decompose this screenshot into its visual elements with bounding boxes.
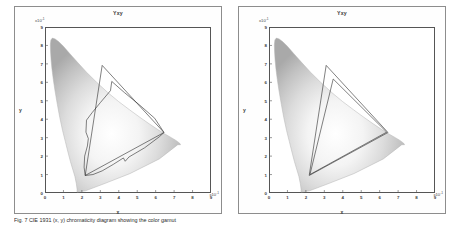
y-tick-3: 3	[265, 135, 267, 140]
y-tick-9: 9	[41, 25, 43, 30]
y-tick-7: 7	[41, 61, 43, 66]
y-axis-multiplier-base-right: x10	[259, 18, 266, 23]
figure-caption: Fig. 7 CIE 1931 (x, y) chromaticity diag…	[14, 217, 444, 231]
x-axis-title-left: x	[15, 209, 221, 215]
y-axis-multiplier-exponent-left: -1	[42, 17, 45, 21]
chart-panel-right: Yxy x10-1 x10-1 y x	[238, 6, 446, 214]
y-axis-multiplier-right: x10-1	[259, 17, 269, 23]
spectral-locus-fill-left	[50, 38, 180, 192]
x-axis-title-right: x	[239, 209, 445, 215]
x-tick-0: 0	[44, 195, 46, 200]
x-tick-5: 5	[360, 195, 362, 200]
x-tick-3: 3	[99, 195, 101, 200]
y-tick-6: 6	[41, 80, 43, 85]
x-tick-7: 7	[173, 195, 175, 200]
y-tick-7: 7	[265, 61, 267, 66]
x-tick-8: 8	[191, 195, 193, 200]
y-tick-0: 0	[265, 191, 267, 196]
chart-panel-left: Yxy x10-1 x10-1 y x	[14, 6, 222, 214]
y-tick-6: 6	[265, 80, 267, 85]
plot-area-right: 9876543210 0123456789	[269, 27, 435, 193]
y-tick-1: 1	[265, 172, 267, 177]
y-tick-4: 4	[41, 117, 43, 122]
x-tick-9: 9	[210, 195, 212, 200]
plot-area-left: 9876543210 0123456789	[45, 27, 211, 193]
y-tick-3: 3	[41, 135, 43, 140]
y-tick-8: 8	[41, 43, 43, 48]
y-tick-1: 1	[41, 172, 43, 177]
y-tick-8: 8	[265, 43, 267, 48]
x-tick-6: 6	[154, 195, 156, 200]
x-tick-4: 4	[342, 195, 344, 200]
x-tick-7: 7	[397, 195, 399, 200]
y-axis-multiplier-left: x10-1	[35, 17, 45, 23]
y-tick-4: 4	[265, 117, 267, 122]
y-axis-title-right: y	[243, 107, 246, 113]
x-tick-3: 3	[323, 195, 325, 200]
y-tick-2: 2	[41, 154, 43, 159]
y-tick-2: 2	[265, 154, 267, 159]
x-axis-multiplier-exponent-left: -1	[216, 191, 219, 195]
chromaticity-plot-svg-right	[269, 27, 435, 193]
x-tick-9: 9	[434, 195, 436, 200]
x-tick-2: 2	[81, 195, 83, 200]
panel-title-right: Yxy	[239, 10, 445, 16]
y-axis-multiplier-exponent-right: -1	[266, 17, 269, 21]
x-tick-8: 8	[415, 195, 417, 200]
y-tick-5: 5	[41, 98, 43, 103]
x-tick-2: 2	[305, 195, 307, 200]
panel-row: Yxy x10-1 x10-1 y x	[0, 0, 458, 216]
x-axis-multiplier-exponent-right: -1	[440, 191, 443, 195]
x-tick-6: 6	[378, 195, 380, 200]
spectral-locus-fill-right	[274, 38, 404, 192]
chromaticity-figure: Yxy x10-1 x10-1 y x	[0, 0, 458, 231]
panel-title-left: Yxy	[15, 10, 221, 16]
y-tick-5: 5	[265, 98, 267, 103]
x-tick-0: 0	[268, 195, 270, 200]
x-tick-1: 1	[286, 195, 288, 200]
x-tick-4: 4	[118, 195, 120, 200]
y-axis-title-left: y	[19, 107, 22, 113]
chromaticity-plot-svg-left	[45, 27, 211, 193]
y-tick-9: 9	[265, 25, 267, 30]
y-axis-multiplier-base-left: x10	[35, 18, 42, 23]
y-tick-0: 0	[41, 191, 43, 196]
x-tick-1: 1	[62, 195, 64, 200]
x-tick-5: 5	[136, 195, 138, 200]
